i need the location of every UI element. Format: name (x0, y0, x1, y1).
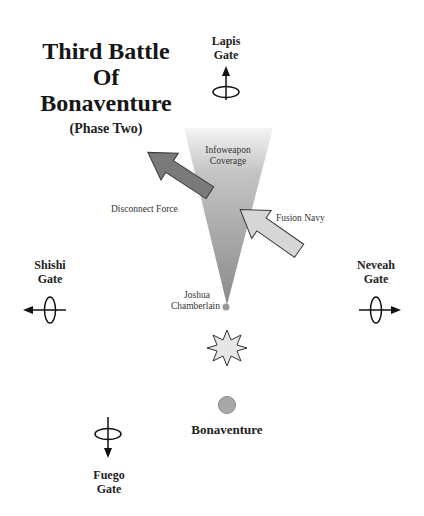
neveah-gate-label: Neveah Gate (346, 258, 406, 286)
infoweapon-coverage-label: Infoweapon Coverage (200, 145, 256, 167)
shishi-gate-icon (23, 297, 66, 323)
disconnect-force-label: Disconnect Force (111, 204, 178, 215)
joshua-chamberlain-marker-icon (223, 304, 230, 311)
lapis-gate-icon (213, 66, 239, 100)
joshua-chamberlain-label: Joshua Chamberlain (160, 290, 220, 312)
neveah-gate-icon (359, 297, 401, 323)
fuego-gate-icon (95, 417, 121, 458)
fusion-navy-label: Fusion Navy (276, 213, 325, 224)
fuego-gate-label: Fuego Gate (79, 468, 139, 496)
lapis-gate-label: Lapis Gate (196, 34, 256, 62)
shishi-gate-label: Shishi Gate (20, 258, 80, 286)
bonaventure-label: Bonaventure (172, 422, 282, 438)
starburst-explosion-icon (207, 330, 247, 366)
bonaventure-planet-icon (219, 397, 236, 414)
